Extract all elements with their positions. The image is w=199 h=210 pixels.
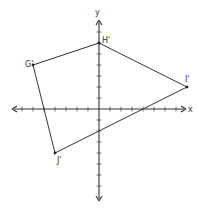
x-axis-label: x — [188, 105, 193, 114]
vertex-point — [54, 152, 57, 155]
vertex-point — [98, 42, 101, 45]
vertex-label: J' — [56, 156, 62, 165]
y-axis-label: y — [95, 8, 100, 17]
quadrilateral — [33, 43, 187, 153]
vertices: G'H'I'J' — [25, 36, 190, 165]
vertex-point — [186, 86, 189, 89]
vertex-label: G' — [25, 60, 33, 69]
vertex-label: I' — [185, 75, 190, 84]
coordinate-plane: x y G'H'I'J' — [0, 0, 199, 210]
vertex-label: H' — [102, 36, 110, 45]
